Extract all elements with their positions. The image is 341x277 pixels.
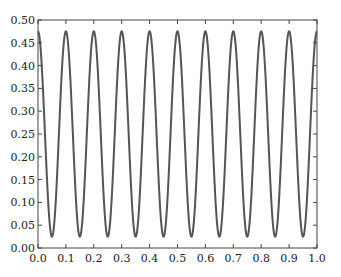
x-tick-label: 0.3 (113, 252, 131, 265)
x-tick-label: 0.8 (252, 252, 270, 265)
plot-frame (38, 20, 317, 248)
y-tick-label: 0.10 (11, 196, 36, 209)
x-tick-label: 0.7 (225, 252, 243, 265)
y-tick-label: 0.00 (11, 242, 36, 255)
x-tick-label: 0.4 (141, 252, 159, 265)
x-tick-label: 1.0 (308, 252, 326, 265)
y-tick-label: 0.30 (11, 105, 36, 118)
series-line-signal (38, 31, 317, 236)
y-tick-label: 0.05 (11, 219, 36, 232)
y-tick-label: 0.35 (11, 82, 36, 95)
y-axis: 0.000.050.100.150.200.250.300.350.400.45… (11, 14, 318, 255)
x-tick-label: 0.2 (85, 252, 103, 265)
y-tick-label: 0.25 (11, 128, 36, 141)
x-tick-label: 0.6 (197, 252, 215, 265)
y-tick-label: 0.40 (11, 60, 36, 73)
x-tick-label: 0.5 (169, 252, 187, 265)
y-tick-label: 0.45 (11, 37, 36, 50)
plot-area (38, 20, 317, 248)
line-chart: 0.00.10.20.30.40.50.60.70.80.91.0 0.000.… (0, 0, 341, 277)
y-tick-label: 0.20 (11, 151, 36, 164)
y-tick-label: 0.50 (11, 14, 36, 27)
x-tick-label: 0.1 (57, 252, 75, 265)
x-tick-label: 0.9 (280, 252, 298, 265)
y-tick-label: 0.15 (11, 174, 36, 187)
